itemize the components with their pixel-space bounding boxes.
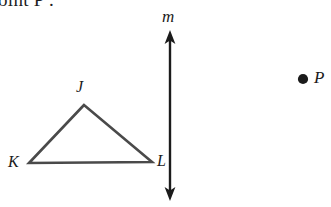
line-label-m: m (162, 8, 174, 25)
figure-canvas (0, 0, 331, 207)
point-label-p: P (314, 69, 324, 86)
vertex-label-j: J (76, 79, 83, 95)
geometry-figure: oint P . J K L m P (0, 0, 331, 207)
triangle-jkl (29, 105, 152, 163)
vertex-label-l: L (157, 153, 166, 169)
vertex-label-k: K (8, 154, 19, 170)
point-p-dot (298, 74, 308, 84)
